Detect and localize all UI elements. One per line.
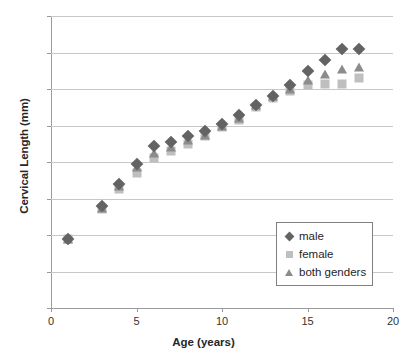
y-axis-title: Cervical Length (mm) [18, 66, 30, 246]
chart-legend: male female both genders [276, 222, 373, 286]
legend-label-female: female [299, 248, 334, 260]
data-point-both-genders [354, 63, 364, 72]
data-point-male [318, 53, 331, 66]
square-icon [282, 251, 296, 258]
x-tick-label: 15 [293, 315, 323, 327]
triangle-icon [282, 269, 296, 276]
data-point-female [320, 79, 329, 88]
x-tick-mark [137, 308, 138, 312]
data-point-both-genders [337, 64, 347, 73]
x-tick-mark [222, 308, 223, 312]
x-axis-title: Age (years) [0, 336, 407, 348]
x-tick-mark [308, 308, 309, 312]
legend-item-female: female [282, 245, 366, 263]
x-tick-mark [51, 308, 52, 312]
y-tick-mark [47, 53, 51, 54]
x-tick-label: 0 [36, 315, 66, 327]
y-tick-mark [47, 199, 51, 200]
y-tick-mark [47, 162, 51, 163]
y-tick-mark [47, 89, 51, 90]
x-tick-mark [393, 308, 394, 312]
legend-item-male: male [282, 227, 366, 245]
legend-label-male: male [299, 230, 324, 242]
data-point-both-genders [320, 70, 330, 79]
diamond-icon [282, 233, 296, 240]
data-point-female [337, 79, 346, 88]
y-tick-mark [47, 272, 51, 273]
y-tick-mark [47, 126, 51, 127]
data-point-female [354, 74, 363, 83]
y-tick-mark [47, 235, 51, 236]
gridline-y [51, 89, 393, 90]
y-tick-mark [47, 16, 51, 17]
gridline-y [51, 162, 393, 163]
x-tick-label: 10 [207, 315, 237, 327]
legend-item-both-genders: both genders [282, 263, 366, 281]
x-tick-label: 5 [122, 315, 152, 327]
gridline-y [51, 16, 393, 17]
legend-label-both-genders: both genders [299, 266, 366, 278]
x-tick-label: 20 [378, 315, 407, 327]
cervical-length-scatter-chart: Cervical Length (mm) Age (years) 0102030… [0, 0, 407, 360]
